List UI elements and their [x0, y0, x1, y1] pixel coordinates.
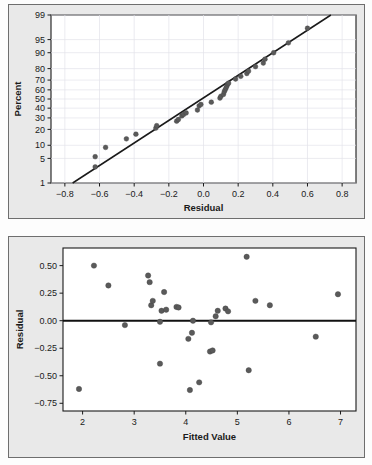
x-tick-label: −0.6 [91, 189, 109, 199]
data-point [335, 292, 340, 297]
residuals-versus-fits-svg: 0.500.250.00−0.25−0.50−0.75234567Fitted … [9, 237, 364, 457]
y-tick-label: −0.75 [34, 398, 57, 408]
x-tick-label: 0.0 [197, 189, 210, 199]
residuals-versus-fits-panel: 0.500.250.00−0.25−0.50−0.75234567Fitted … [8, 236, 365, 458]
data-point [253, 298, 258, 303]
data-point [91, 263, 96, 268]
y-tick-label: 70 [35, 75, 45, 85]
data-point [124, 136, 129, 141]
y-tick-label: 0.25 [39, 288, 57, 298]
data-point [186, 336, 191, 341]
data-point [93, 165, 98, 170]
data-point [267, 303, 272, 308]
normal-probability-plot-svg: 151020304050607080909599−0.8−0.6−0.4−0.2… [9, 5, 364, 218]
data-point [244, 254, 249, 259]
plot-area-frame [63, 248, 356, 411]
y-axis-title: Percent [12, 81, 23, 117]
data-point [106, 283, 111, 288]
data-point [134, 132, 139, 137]
x-tick-label: 7 [338, 417, 343, 427]
data-point [147, 279, 152, 284]
data-point [226, 81, 231, 86]
data-point [209, 100, 214, 105]
y-tick-label: 30 [35, 113, 45, 123]
x-tick-label: 6 [286, 417, 291, 427]
data-point [238, 74, 243, 79]
data-point [176, 305, 181, 310]
figure-page: 151020304050607080909599−0.8−0.6−0.4−0.2… [0, 0, 372, 465]
data-point [246, 69, 251, 74]
data-point [76, 386, 81, 391]
data-point [196, 380, 201, 385]
y-tick-label: 10 [35, 140, 45, 150]
y-tick-label: 90 [35, 48, 45, 58]
data-point [154, 123, 159, 128]
data-point [190, 318, 195, 323]
data-point [93, 154, 98, 159]
data-point [145, 273, 150, 278]
data-point [187, 387, 192, 392]
x-tick-label: 0.6 [301, 189, 314, 199]
y-tick-label: 1 [40, 178, 45, 188]
x-axis-title: Fitted Value [183, 431, 236, 442]
data-point [103, 145, 108, 150]
data-point [184, 111, 189, 116]
data-point [313, 334, 318, 339]
y-tick-label: −0.25 [34, 343, 57, 353]
data-point [176, 117, 181, 122]
y-tick-label: 0.00 [39, 316, 57, 326]
x-tick-label: 4 [183, 417, 188, 427]
residual-plot-group: 0.500.250.00−0.25−0.50−0.75234567Fitted … [14, 248, 356, 442]
x-tick-label: 0.8 [336, 189, 349, 199]
x-tick-label: 0.4 [267, 189, 280, 199]
y-axis-title: Residual [14, 310, 25, 350]
y-tick-label: 40 [35, 103, 45, 113]
y-tick-label: 95 [35, 35, 45, 45]
data-point [161, 289, 166, 294]
y-tick-label: 50 [35, 94, 45, 104]
x-tick-label: −0.2 [160, 189, 178, 199]
data-point [253, 64, 258, 69]
y-tick-label: 99 [35, 10, 45, 20]
x-tick-label: −0.4 [125, 189, 143, 199]
y-tick-label: 60 [35, 85, 45, 95]
data-point [189, 330, 194, 335]
data-point [208, 320, 213, 325]
data-point [157, 361, 162, 366]
normal-probability-plot-panel: 151020304050607080909599−0.8−0.6−0.4−0.2… [8, 4, 365, 219]
data-point [150, 298, 155, 303]
y-tick-label: 20 [35, 125, 45, 135]
data-point [210, 348, 215, 353]
y-tick-label: −0.50 [34, 371, 57, 381]
data-point [246, 368, 251, 373]
x-tick-label: −0.8 [56, 189, 74, 199]
x-axis-title: Residual [184, 202, 224, 213]
data-point [286, 40, 291, 45]
data-point [122, 322, 127, 327]
data-point [163, 307, 168, 312]
data-point [215, 308, 220, 313]
y-tick-label: 80 [35, 64, 45, 74]
y-tick-label: 0.50 [39, 261, 57, 271]
data-point [199, 102, 204, 107]
normal-plot-group: 151020304050607080909599−0.8−0.6−0.4−0.2… [12, 10, 356, 213]
data-point [233, 77, 238, 82]
x-tick-label: 0.2 [232, 189, 245, 199]
data-point [305, 26, 310, 31]
y-tick-label: 5 [40, 154, 45, 164]
data-point [225, 309, 230, 314]
data-point [263, 57, 268, 62]
data-point [271, 50, 276, 55]
data-point [157, 319, 162, 324]
x-tick-label: 2 [80, 417, 85, 427]
x-tick-label: 5 [235, 417, 240, 427]
data-point [213, 314, 218, 319]
x-tick-label: 3 [132, 417, 137, 427]
